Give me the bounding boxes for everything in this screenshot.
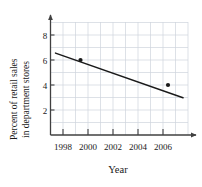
x-tick-labels: 1998 2000 2002 2004 2006 (54, 142, 173, 152)
y-axis-title-line1: Percent of retail sales (9, 58, 19, 140)
x-axis-ticks (63, 129, 163, 135)
y-axis-title-line2: in department stores (21, 61, 31, 138)
x-tick-label: 2002 (104, 142, 122, 152)
chart-figure: 1998 2000 2002 2004 2006 8 6 4 2 Year Pe… (0, 0, 202, 187)
x-axis-title: Year (108, 164, 128, 175)
line-chart: 1998 2000 2002 2004 2006 8 6 4 2 Year Pe… (0, 0, 202, 187)
grid-lines-vertical (51, 22, 189, 135)
y-axis-title: Percent of retail sales in department st… (9, 58, 31, 140)
data-point-marker (78, 58, 82, 62)
data-point-marker (166, 83, 170, 87)
y-tick-label: 2 (43, 106, 48, 116)
grid-lines-horizontal (51, 23, 189, 123)
y-tick-labels: 8 6 4 2 (43, 31, 48, 116)
y-tick-label: 8 (43, 31, 48, 41)
x-tick-label: 2004 (129, 142, 148, 152)
y-tick-label: 6 (43, 56, 48, 66)
y-tick-label: 4 (43, 81, 48, 91)
x-tick-label: 2006 (154, 142, 173, 152)
x-tick-label: 2000 (79, 142, 98, 152)
x-tick-label: 1998 (54, 142, 73, 152)
